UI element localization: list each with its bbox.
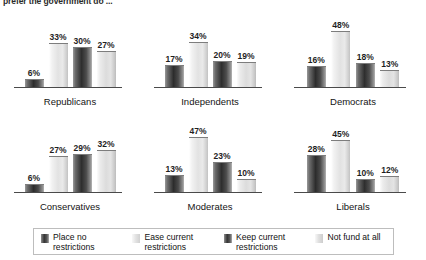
bar-group: 28% 45% 10% 12% bbox=[280, 126, 426, 192]
legend-label: Not fund at all bbox=[327, 232, 380, 242]
bar bbox=[213, 61, 232, 87]
bar-value-label: 19% bbox=[237, 52, 254, 61]
bar-slot: 12% bbox=[378, 126, 403, 192]
legend-label: Ease current restrictions bbox=[144, 232, 216, 252]
panel-label: Democrats bbox=[280, 96, 426, 107]
bar bbox=[307, 66, 326, 87]
bar bbox=[237, 179, 256, 192]
bar-group: 6% 27% 29% 32% bbox=[0, 126, 140, 192]
bar bbox=[189, 137, 208, 192]
chart-caption: prefer the government do ... bbox=[3, 0, 113, 6]
bar-value-label: 33% bbox=[49, 33, 66, 42]
bar-slot: 34% bbox=[186, 21, 210, 87]
bar-slot: 23% bbox=[210, 126, 234, 192]
bar-value-label: 13% bbox=[165, 165, 182, 174]
panel-conservatives: 6% 27% 29% 32% bbox=[0, 113, 140, 218]
bar-slot: 28% bbox=[304, 126, 329, 192]
panel-row-top: 6% 33% 30% 27% bbox=[0, 8, 426, 113]
bar-group: 6% 33% 30% 27% bbox=[0, 21, 140, 87]
bar-value-label: 6% bbox=[28, 174, 40, 183]
bar-slot: 16% bbox=[304, 21, 329, 87]
bar-slot: 20% bbox=[210, 21, 234, 87]
panel-label: Moderates bbox=[140, 201, 280, 212]
bar-value-label: 28% bbox=[308, 145, 325, 154]
bar-value-label: 20% bbox=[213, 51, 230, 60]
bar-group: 13% 47% 23% 10% bbox=[140, 126, 280, 192]
plot-area: 17% 34% 20% 19% bbox=[140, 21, 280, 87]
bar-slot: 32% bbox=[94, 126, 118, 192]
bar-value-label: 18% bbox=[357, 53, 374, 62]
bar-slot: 19% bbox=[234, 21, 258, 87]
bar-value-label: 23% bbox=[213, 152, 230, 161]
bar bbox=[97, 51, 116, 87]
plot-area: 6% 27% 29% 32% bbox=[0, 126, 140, 192]
bar-value-label: 10% bbox=[237, 169, 254, 178]
bar-slot: 10% bbox=[234, 126, 258, 192]
baseline-axis bbox=[154, 87, 262, 88]
plot-area: 13% 47% 23% 10% bbox=[140, 126, 280, 192]
bar-value-label: 47% bbox=[189, 127, 206, 136]
bar bbox=[49, 156, 68, 192]
panel-republicans: 6% 33% 30% 27% bbox=[0, 8, 140, 113]
legend-label: Place no restrictions bbox=[53, 232, 125, 252]
bar-value-label: 16% bbox=[308, 56, 325, 65]
bar-value-label: 6% bbox=[28, 69, 40, 78]
bar-value-label: 12% bbox=[381, 166, 398, 175]
bar bbox=[380, 176, 399, 192]
bar bbox=[73, 47, 92, 87]
bar-value-label: 13% bbox=[381, 60, 398, 69]
bar-group: 16% 48% 18% 13% bbox=[280, 21, 426, 87]
baseline-axis bbox=[294, 87, 406, 88]
bar-slot: 27% bbox=[46, 126, 70, 192]
bar bbox=[356, 63, 375, 87]
panel-label: Republicans bbox=[0, 96, 140, 107]
bar-group: 17% 34% 20% 19% bbox=[140, 21, 280, 87]
panel-label: Independents bbox=[140, 96, 280, 107]
bar-slot: 33% bbox=[46, 21, 70, 87]
bar bbox=[97, 150, 116, 192]
plot-area: 28% 45% 10% 12% bbox=[280, 126, 426, 192]
bar-value-label: 32% bbox=[97, 140, 114, 149]
bar-value-label: 34% bbox=[189, 32, 206, 41]
bar-slot: 18% bbox=[353, 21, 378, 87]
bar bbox=[73, 154, 92, 192]
bar-slot: 45% bbox=[329, 126, 354, 192]
bar bbox=[49, 43, 68, 87]
bar bbox=[165, 175, 184, 192]
legend-swatch-icon bbox=[224, 234, 232, 243]
bar bbox=[380, 70, 399, 87]
bar-value-label: 27% bbox=[97, 41, 114, 50]
baseline-axis bbox=[14, 87, 122, 88]
baseline-axis bbox=[14, 192, 122, 193]
bar-value-label: 29% bbox=[73, 144, 90, 153]
bar-slot: 48% bbox=[329, 21, 354, 87]
panel-label: Conservatives bbox=[0, 201, 140, 212]
legend-item-keep-current-restrictions: Keep current restrictions bbox=[217, 232, 308, 252]
bar-slot: 27% bbox=[94, 21, 118, 87]
bar-value-label: 27% bbox=[49, 146, 66, 155]
bar-value-label: 45% bbox=[332, 130, 349, 139]
bar bbox=[165, 65, 184, 87]
bar-slot: 30% bbox=[70, 21, 94, 87]
bar bbox=[307, 155, 326, 192]
bar-value-label: 30% bbox=[73, 37, 90, 46]
bar bbox=[25, 184, 44, 192]
bar-slot: 13% bbox=[162, 126, 186, 192]
baseline-axis bbox=[154, 192, 262, 193]
plot-area: 6% 33% 30% 27% bbox=[0, 21, 140, 87]
panel-grid: 6% 33% 30% 27% bbox=[0, 8, 426, 218]
bar bbox=[189, 42, 208, 87]
bar bbox=[213, 162, 232, 192]
legend-item-place-no-restrictions: Place no restrictions bbox=[34, 232, 125, 252]
legend-swatch-icon bbox=[41, 234, 49, 243]
legend-item-ease-current-restrictions: Ease current restrictions bbox=[125, 232, 216, 252]
bar bbox=[25, 79, 44, 87]
panel-independents: 17% 34% 20% 19% bbox=[140, 8, 280, 113]
bar bbox=[331, 31, 350, 87]
bar-value-label: 48% bbox=[332, 21, 349, 30]
bar bbox=[331, 140, 350, 193]
legend-label: Keep current restrictions bbox=[236, 232, 308, 252]
bar bbox=[237, 62, 256, 87]
legend-swatch-icon bbox=[132, 234, 140, 243]
plot-area: 16% 48% 18% 13% bbox=[280, 21, 426, 87]
